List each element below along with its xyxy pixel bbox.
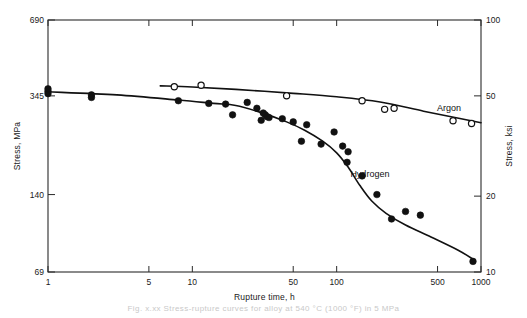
data-point-argon	[171, 84, 177, 90]
data-point-hydrogen	[254, 105, 261, 112]
x-tick-label: 100	[330, 277, 344, 287]
series-label-hydrogen: Hydrogen	[350, 169, 389, 179]
data-point-hydrogen	[345, 148, 352, 155]
data-point-hydrogen	[290, 119, 297, 126]
x-tick-label: 500	[430, 277, 444, 287]
data-point-hydrogen	[175, 97, 182, 104]
data-point-hydrogen	[279, 115, 286, 122]
series-hydrogen	[45, 86, 477, 265]
data-point-hydrogen	[303, 121, 310, 128]
data-point-argon	[198, 82, 204, 88]
y-tick-label-right: 10	[486, 267, 496, 277]
y-tick-label-left: 345	[30, 91, 44, 101]
data-point-argon	[382, 106, 388, 112]
data-point-hydrogen	[402, 208, 409, 215]
data-point-hydrogen	[88, 94, 95, 101]
data-point-hydrogen	[244, 99, 251, 106]
data-point-hydrogen	[344, 159, 351, 166]
data-point-argon	[359, 98, 365, 104]
data-point-hydrogen	[388, 216, 395, 223]
stress-rupture-chart: 151050100500100069140345690102050100Rupt…	[0, 0, 527, 318]
y-axis-title-left: Stress, MPa	[12, 122, 22, 171]
data-point-hydrogen	[222, 101, 229, 108]
data-point-hydrogen	[205, 100, 212, 107]
data-point-argon	[391, 105, 397, 111]
data-point-hydrogen	[331, 129, 338, 136]
y-tick-label-right: 50	[486, 91, 496, 101]
data-point-hydrogen	[298, 138, 305, 145]
x-tick-label: 10	[188, 277, 198, 287]
x-tick-label: 1000	[472, 277, 491, 287]
y-tick-label-left: 690	[30, 15, 44, 25]
data-point-hydrogen	[374, 191, 381, 198]
y-tick-label-left: 69	[35, 267, 45, 277]
chart-figure: 151050100500100069140345690102050100Rupt…	[0, 0, 527, 318]
data-point-hydrogen	[266, 114, 273, 121]
data-point-argon	[468, 120, 474, 126]
x-tick-label: 1	[46, 277, 51, 287]
x-tick-label: 5	[147, 277, 152, 287]
data-point-argon	[450, 118, 456, 124]
series-label-argon: Argon	[437, 103, 461, 113]
x-axis-title: Rupture time, h	[234, 292, 295, 302]
data-point-hydrogen	[229, 112, 236, 119]
data-point-hydrogen	[339, 143, 346, 150]
data-point-hydrogen	[417, 212, 424, 219]
x-tick-label: 50	[288, 277, 298, 287]
figure-caption: Fig. x.xx Stress-rupture curves for allo…	[0, 304, 527, 318]
data-point-hydrogen	[318, 141, 325, 148]
data-point-argon	[284, 93, 290, 99]
y-tick-label-left: 140	[30, 190, 44, 200]
y-tick-label-right: 100	[486, 15, 500, 25]
data-point-hydrogen	[45, 86, 52, 93]
plot-frame	[48, 20, 481, 272]
y-axis-title-right: Stress, ksi	[504, 125, 514, 166]
y-tick-label-right: 20	[486, 191, 496, 201]
data-point-hydrogen	[470, 258, 477, 265]
